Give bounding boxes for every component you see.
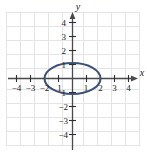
y-tick-label-4: 4	[62, 18, 67, 28]
y-tick-label-1: 1	[62, 60, 67, 70]
y-tick-label--1: 1	[62, 88, 67, 98]
y-tick-label--4: −4	[58, 130, 68, 140]
y-axis	[70, 12, 76, 150]
x-axis-name: x	[139, 67, 145, 78]
y-axis-name: y	[75, 1, 81, 12]
x-tick-label-2: 2	[98, 83, 103, 93]
x-tick-label--3: −3	[26, 83, 36, 93]
y-tick-label-3: 3	[62, 32, 67, 42]
x-tick-label--2: −2	[40, 83, 50, 93]
y-tick-label--3: −3	[58, 116, 68, 126]
x-tick-label--4: −4	[12, 83, 22, 93]
y-tick-label--2: −2	[58, 102, 68, 112]
y-tick-label-2: 2	[62, 46, 67, 56]
x-tick-label-3: 3	[112, 83, 117, 93]
graph-canvas: −4 −3 −2 1 1 2 3 4 4 3 2 1 1 −2 −3 −4 x …	[0, 0, 147, 154]
x-tick-label-4: 4	[126, 83, 131, 93]
x-tick-label-1: 1	[84, 83, 89, 93]
coordinate-plane-figure: −4 −3 −2 1 1 2 3 4 4 3 2 1 1 −2 −3 −4 x …	[0, 0, 147, 154]
